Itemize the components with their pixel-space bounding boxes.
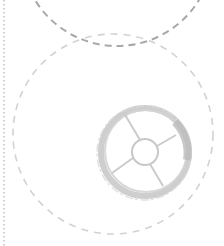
wheel-hub xyxy=(132,139,158,165)
steering-wheel-icon xyxy=(97,106,191,200)
top-dashed-arc xyxy=(21,0,213,46)
diagram-canvas xyxy=(0,0,224,246)
